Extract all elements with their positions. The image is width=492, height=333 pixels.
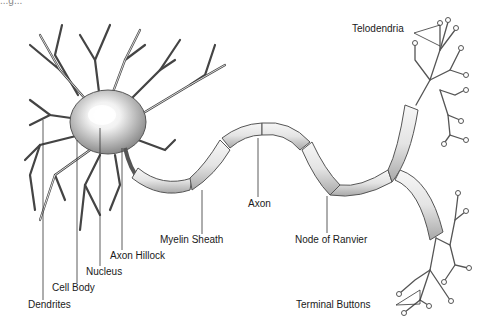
label-terminal-buttons: Terminal Buttons bbox=[296, 300, 370, 310]
label-telodendria: Telodendria bbox=[352, 24, 404, 34]
label-nucleus: Nucleus bbox=[86, 267, 122, 277]
label-axon: Axon bbox=[248, 199, 271, 209]
telodendria bbox=[415, 22, 465, 142]
nucleus bbox=[88, 105, 116, 125]
label-dendrites: Dendrites bbox=[28, 300, 71, 310]
leader-lines bbox=[43, 25, 440, 305]
label-node-of-ranvier: Node of Ranvier bbox=[295, 235, 367, 245]
label-cell-body: Cell Body bbox=[52, 283, 95, 293]
neuron-diagram: ...g... Telodendria Axon Myelin Sheath N… bbox=[0, 0, 492, 333]
myelin-sheath bbox=[132, 105, 443, 240]
label-myelin-sheath: Myelin Sheath bbox=[160, 235, 223, 245]
caption-partial: ...g... bbox=[0, 0, 22, 6]
label-axon-hillock: Axon Hillock bbox=[110, 251, 165, 261]
